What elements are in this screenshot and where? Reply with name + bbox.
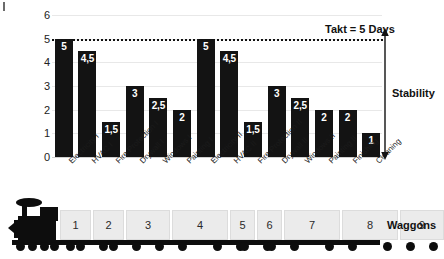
waggon-wheel <box>66 242 75 251</box>
waggons-label: Waggons <box>387 219 436 231</box>
bar-cell: 1,5 <box>241 15 265 157</box>
locomotive-wheel <box>16 242 25 251</box>
y-tick-0: 0 <box>34 152 50 162</box>
bar-value-label: 2 <box>339 112 357 123</box>
bar-value-label: 2 <box>315 112 333 123</box>
waggon-number: 2 <box>105 219 111 231</box>
y-tick-2: 2 <box>34 105 50 115</box>
waggon-7[interactable]: 7 <box>284 210 340 240</box>
bar-value-label: 2,5 <box>149 100 167 111</box>
waggon-2[interactable]: 2 <box>93 210 124 240</box>
waggon-wheel <box>155 242 164 251</box>
locomotive-wheel <box>50 242 59 251</box>
waggon-wheel <box>240 242 249 251</box>
waggon-number: 6 <box>266 219 272 231</box>
bar-value-label: 1,5 <box>244 124 262 135</box>
locomotive-wheel <box>40 242 49 251</box>
waggon-wheel <box>109 242 118 251</box>
waggon-wheel <box>178 242 187 251</box>
waggon-number: 4 <box>197 219 203 231</box>
y-tick-1: 1 <box>34 128 50 138</box>
waggon-wheel <box>290 242 299 251</box>
bar-value-label: 2,5 <box>291 100 309 111</box>
bar-value-label: 5 <box>197 41 215 52</box>
x-axis-tick-labels: Electricity IHVAC IFire Protection IDryw… <box>52 159 383 201</box>
y-tick-6: 6 <box>34 10 50 20</box>
y-tick-3: 3 <box>34 81 50 91</box>
waggon-wheel <box>132 242 141 251</box>
bar-value-label: 4,5 <box>220 53 238 64</box>
bar-cell: 2 <box>336 15 360 157</box>
waggon-number: 3 <box>145 219 151 231</box>
locomotive-cab-icon <box>40 207 58 221</box>
waggon-1[interactable]: 1 <box>60 210 91 240</box>
train-diagram: 123456789 <box>0 196 444 259</box>
waggon-5[interactable]: 5 <box>230 210 255 240</box>
bar[interactable]: 5 <box>55 39 73 157</box>
locomotive-wheel <box>28 242 37 251</box>
bar-cell: 1,5 <box>99 15 123 157</box>
takt-dashed-line <box>52 39 383 41</box>
bar-value-label: 2 <box>173 112 191 123</box>
bar-value-label: 1,5 <box>102 124 120 135</box>
bar-cell: 2,5 <box>147 15 171 157</box>
y-tick-5: 5 <box>34 34 50 44</box>
waggon-wheel <box>406 242 415 251</box>
waggon-3[interactable]: 3 <box>126 210 170 240</box>
waggon-wheel <box>383 242 392 251</box>
y-tick-4: 4 <box>34 57 50 67</box>
y-axis-tick-labels: 0123456 <box>34 0 50 200</box>
waggon-number: 1 <box>72 219 78 231</box>
waggon-wheel <box>429 242 438 251</box>
slide-root: 0123456 54,51,532,5254,51,532,5221 Takt … <box>0 0 444 259</box>
waggon-wheel <box>348 242 357 251</box>
stability-label: Stability <box>392 87 435 99</box>
bar-value-label: 3 <box>126 88 144 99</box>
waggon-6[interactable]: 6 <box>257 210 282 240</box>
stability-arrow <box>378 28 392 160</box>
waggon-wheel <box>76 242 85 251</box>
bar-value-label: 5 <box>55 41 73 52</box>
waggon-number: 7 <box>309 219 315 231</box>
smoke-puff-icon <box>16 198 42 207</box>
bar-cell: 5 <box>52 15 76 157</box>
waggon-number: 8 <box>367 219 373 231</box>
waggon-wheel <box>99 242 108 251</box>
bar-chart: 0123456 54,51,532,5254,51,532,5221 Takt … <box>0 0 444 200</box>
bar-value-label: 3 <box>268 88 286 99</box>
waggon-number: 5 <box>239 219 245 231</box>
bar-value-label: 4,5 <box>78 53 96 64</box>
bar-cell: 5 <box>194 15 218 157</box>
waggon-wheel <box>213 242 222 251</box>
waggon-wheel <box>267 242 276 251</box>
waggon-wheel <box>325 242 334 251</box>
waggon-4[interactable]: 4 <box>172 210 228 240</box>
